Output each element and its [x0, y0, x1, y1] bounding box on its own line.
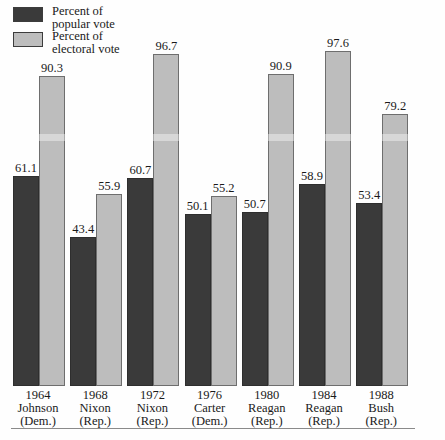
bar-group-1964: 61.190.3	[13, 0, 65, 386]
x-axis-label-1988: 1988Bush(Rep.)	[355, 389, 407, 429]
bar-1980-popular: 50.7	[242, 212, 268, 386]
bar-1984-popular: 58.9	[299, 184, 325, 386]
bar-value-label-1976-electoral: 55.2	[213, 182, 235, 195]
bar-1976-electoral: 55.2	[211, 196, 237, 386]
axis-bottom-rule	[11, 428, 415, 429]
bar-group-1984: 58.997.6	[299, 0, 351, 386]
x-axis-label-1964-party: (Dem.)	[12, 415, 64, 428]
x-axis-label-1988-party: (Rep.)	[355, 415, 407, 428]
bar-1972-popular: 60.7	[127, 178, 153, 387]
x-axis-label-1968-party: (Rep.)	[69, 415, 121, 428]
bar-value-label-1980-popular: 50.7	[244, 198, 266, 211]
bar-1968-electoral: 55.9	[96, 194, 122, 386]
bar-value-label-1988-electoral: 79.2	[384, 100, 406, 113]
bar-1988-popular: 53.4	[356, 203, 382, 386]
x-axis-label-1980-party: (Rep.)	[241, 415, 293, 428]
bar-value-label-1968-popular: 43.4	[72, 223, 94, 236]
x-axis-label-1972-party: (Rep.)	[126, 415, 178, 428]
bar-value-label-1980-electoral: 90.9	[270, 60, 292, 73]
bar-group-1988: 53.479.2	[356, 0, 408, 386]
bar-group-1972: 60.796.7	[127, 0, 179, 386]
bar-value-label-1984-popular: 58.9	[301, 170, 323, 183]
bar-value-label-1972-popular: 60.7	[129, 164, 151, 177]
bar-1976-popular: 50.1	[185, 214, 211, 386]
bar-chart-figure: Percent of popular vote Percent of elect…	[0, 0, 445, 440]
x-axis-label-1980: 1980Reagan(Rep.)	[241, 389, 293, 429]
bar-value-label-1964-electoral: 90.3	[41, 62, 63, 75]
bar-1964-popular: 61.1	[13, 176, 39, 386]
bar-1984-electoral: 97.6	[325, 51, 351, 386]
x-axis-label-1968: 1968Nixon(Rep.)	[69, 389, 121, 429]
x-axis-label-1976: 1976Carter(Dem.)	[184, 389, 236, 429]
bar-1964-electoral: 90.3	[39, 76, 65, 386]
bar-1968-popular: 43.4	[70, 237, 96, 386]
x-axis-label-1976-party: (Dem.)	[184, 415, 236, 428]
x-axis-label-1972: 1972Nixon(Rep.)	[126, 389, 178, 429]
bar-group-1976: 50.155.2	[185, 0, 237, 386]
plot-area: 61.190.343.455.960.796.750.155.250.790.9…	[0, 0, 445, 386]
x-axis-label-1964: 1964Johnson(Dem.)	[12, 389, 64, 429]
bar-value-label-1984-electoral: 97.6	[327, 37, 349, 50]
bar-1980-electoral: 90.9	[268, 74, 294, 386]
bar-value-label-1972-electoral: 96.7	[155, 40, 177, 53]
x-axis-label-1984: 1984Reagan(Rep.)	[298, 389, 350, 429]
bar-group-1968: 43.455.9	[70, 0, 122, 386]
bar-value-label-1968-electoral: 55.9	[98, 180, 120, 193]
bar-value-label-1988-popular: 53.4	[358, 189, 380, 202]
bar-value-label-1976-popular: 50.1	[187, 200, 209, 213]
x-axis-labels: 1964Johnson(Dem.)1968Nixon(Rep.)1972Nixo…	[0, 389, 445, 431]
bar-value-label-1964-popular: 61.1	[15, 162, 37, 175]
bar-1972-electoral: 96.7	[153, 54, 179, 386]
x-axis-label-1984-party: (Rep.)	[298, 415, 350, 428]
bar-1988-electoral: 79.2	[382, 114, 408, 386]
bar-group-1980: 50.790.9	[242, 0, 294, 386]
